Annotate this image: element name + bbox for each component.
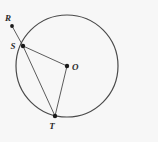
point-label-t: T: [49, 121, 55, 131]
point-o-dot: [65, 64, 69, 68]
figure-panel: R S O T: [0, 0, 158, 142]
point-label-o: O: [72, 62, 79, 72]
point-t-dot: [53, 114, 57, 118]
point-r-dot: [10, 24, 14, 28]
circle-geometry-diagram: R S O T: [0, 0, 158, 142]
point-s-dot: [21, 44, 25, 48]
point-label-r: R: [4, 13, 11, 23]
point-label-s: S: [10, 41, 15, 51]
diagram-background: [0, 0, 158, 142]
